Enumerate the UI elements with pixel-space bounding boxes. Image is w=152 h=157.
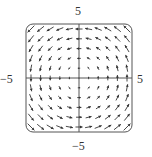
y-min-label: −5: [72, 140, 85, 152]
arrowhead-icon: [49, 78, 52, 80]
arrowhead-icon: [80, 126, 83, 129]
arrowhead-icon: [106, 76, 109, 78]
vector-field-plot: [0, 0, 152, 157]
arrowhead-icon: [79, 87, 80, 88]
y-max-label: 5: [75, 5, 81, 17]
arrowhead-icon: [78, 67, 79, 68]
arrowhead-icon: [79, 116, 82, 119]
arrowhead-icon: [79, 97, 81, 99]
arrowhead-icon: [88, 77, 89, 78]
arrowhead-icon: [30, 79, 33, 82]
arrowhead-icon: [59, 78, 61, 80]
arrowhead-icon: [126, 74, 129, 77]
arrowhead-icon: [77, 47, 79, 50]
x-min-label: −5: [0, 73, 13, 85]
arrowhead-icon: [77, 57, 79, 59]
arrowhead-icon: [79, 106, 81, 109]
arrowhead-icon: [97, 76, 99, 78]
arrowhead-icon: [76, 37, 79, 40]
x-max-label: 5: [137, 73, 143, 85]
arrowhead-icon: [75, 28, 78, 31]
arrowhead-icon: [69, 78, 70, 79]
arrowhead-icon: [116, 75, 119, 78]
arrowhead-icon: [39, 78, 42, 81]
